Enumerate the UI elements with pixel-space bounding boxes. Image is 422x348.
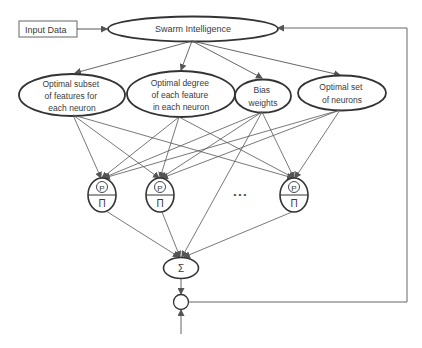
param-2-line-1: Optimal degree: [151, 78, 209, 88]
svg-text:Optimal subset of featur: Optimal subset of features for each neur…: [42, 79, 101, 113]
neuron-1-pi: Π: [98, 198, 105, 209]
swarm-intelligence-label: Swarm Intelligence: [155, 24, 231, 34]
neuron-3-top: P: [291, 184, 296, 193]
svg-text:Optimal degree of each f: Optimal degree of each feature in each n…: [151, 78, 212, 112]
sum-node: Σ: [164, 258, 199, 279]
neuron-2-pi: Π: [156, 198, 163, 209]
input-data-box: Input Data: [19, 21, 77, 37]
param-4-line-1: Optimal set: [319, 82, 363, 92]
neuron-3: P Π: [280, 178, 308, 212]
param-2-line-3: in each neuron: [153, 102, 210, 112]
neuron-1-top: P: [99, 184, 104, 193]
neuron-to-sum-arrows: [106, 211, 292, 257]
neuron-3-pi: Π: [290, 198, 297, 209]
neuron-2: P Π: [146, 178, 174, 212]
input-data-label: Input Data: [25, 25, 67, 35]
pi-sigma-swarm-diagram: Input Data Swarm Intelligence Optimal su…: [0, 0, 422, 348]
param-4-line-2: of neurons: [322, 95, 362, 105]
param-2-line-2: of each feature: [151, 90, 208, 100]
neuron-1: P Π: [88, 178, 116, 212]
parameter-optimal-neurons: Optimal set of neurons: [298, 76, 386, 111]
parameter-optimal-subset: Optimal subset of features for each neur…: [19, 74, 125, 116]
comparator-node: [174, 295, 189, 310]
parameter-bias-weights: Bias weights: [235, 80, 291, 113]
ellipsis-dots: • • •: [234, 190, 247, 199]
neuron-2-top: P: [157, 184, 162, 193]
param-1-line-3: each neuron: [48, 103, 96, 113]
param-1-line-1: Optimal subset: [42, 79, 99, 89]
param-1-line-2: of features for: [45, 91, 98, 101]
param-3-line-1: Bias: [254, 85, 271, 95]
swarm-intelligence-node: Swarm Intelligence: [108, 17, 278, 42]
sigma-symbol: Σ: [178, 263, 184, 274]
parameter-optimal-degree: Optimal degree of each feature in each n…: [127, 71, 235, 117]
feedback-loop-arrow: [189, 28, 408, 302]
swarm-to-parameter-arrows: [75, 41, 340, 78]
param-3-line-2: weights: [248, 98, 278, 108]
